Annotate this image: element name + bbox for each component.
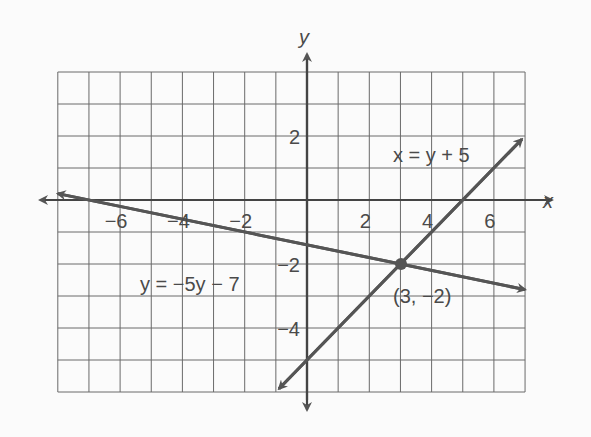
graph: −6−4−22462−2−4 x y x = y + 5 y = −5y − 7… [0,0,591,437]
x-tick-label: −4 [167,210,190,232]
line2-label: y = −5y − 7 [140,273,240,295]
grid [58,72,525,392]
y-axis-label: y [297,26,310,48]
y-tick-label: −4 [277,318,300,340]
line1-label: x = y + 5 [393,144,470,166]
intersection-point [395,258,407,270]
x-tick-label: −2 [229,210,252,232]
x-tick-label: 6 [484,210,495,232]
y-tick-label: 2 [289,126,300,148]
x-tick-label: 4 [422,210,433,232]
point-label: (3, −2) [393,285,451,307]
y-tick-label: −2 [277,254,300,276]
x-tick-label: −6 [105,210,128,232]
x-tick-label: 2 [360,210,371,232]
x-axis-label: x [542,190,554,212]
